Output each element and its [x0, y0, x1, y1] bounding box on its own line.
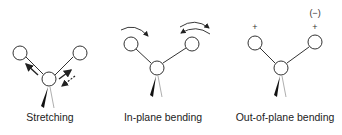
atom-center — [42, 72, 56, 86]
atom-right — [308, 35, 322, 49]
atom-left — [124, 37, 138, 51]
dashed-bond — [50, 87, 54, 108]
plus-sign-left: + — [252, 22, 257, 32]
atom-right — [73, 46, 87, 60]
stretch-arrow-right — [59, 70, 71, 79]
in-plane-bending-molecule — [121, 22, 210, 97]
wedge-bond — [41, 87, 48, 108]
curved-arrow-left — [121, 27, 148, 36]
wedge-bond — [274, 76, 280, 97]
label-out-of-plane-bending: Out-of-plane bending — [236, 111, 335, 123]
stretch-arrow-left — [26, 64, 38, 75]
plus-sign-right: + — [312, 22, 317, 32]
label-in-plane-bending: In-plane bending — [124, 111, 202, 123]
stretching-molecule — [13, 46, 87, 108]
minus-sign-right: (−) — [309, 8, 320, 18]
atom-left — [248, 36, 262, 50]
label-stretching: Stretching — [26, 111, 73, 123]
out-of-plane-bending-molecule — [248, 35, 322, 97]
atom-center — [150, 61, 164, 75]
dashed-bond — [158, 76, 162, 97]
dashed-bond — [282, 76, 286, 97]
atom-center — [274, 61, 288, 75]
stretch-arrow-dashed — [62, 76, 75, 86]
curved-arrow-right-outer — [180, 22, 209, 28]
atom-left — [13, 46, 27, 60]
curved-arrow-right-inner — [181, 29, 210, 34]
atom-right — [185, 37, 199, 51]
wedge-bond — [150, 76, 156, 97]
